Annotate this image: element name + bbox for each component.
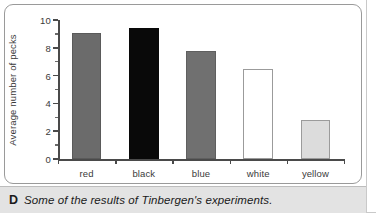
bar-black	[129, 28, 159, 159]
x-axis-line	[58, 159, 344, 161]
x-tick	[115, 159, 116, 164]
y-tick-minor	[55, 33, 58, 34]
x-tick-label-black: black	[132, 168, 155, 179]
x-tick-label-blue: blue	[192, 168, 210, 179]
y-tick-label: 6	[46, 70, 51, 81]
y-tick-minor	[55, 89, 58, 90]
x-tick-label-white: white	[247, 168, 270, 179]
y-axis-title: Average number of pecks	[7, 15, 18, 165]
page-edge-right	[366, 0, 367, 213]
y-tick-label: 10	[40, 15, 51, 26]
x-tick	[172, 159, 173, 164]
y-tick-label: 8	[46, 42, 51, 53]
y-tick-label: 4	[46, 98, 51, 109]
figure-caption-letter: D	[9, 193, 18, 207]
y-tick-major	[53, 75, 58, 77]
y-tick-label: 2	[46, 126, 51, 137]
y-tick-major	[53, 103, 58, 105]
figure-caption: D Some of the results of Tinbergen's exp…	[9, 193, 272, 207]
x-tick-label-red: red	[80, 168, 94, 179]
y-tick-minor	[55, 61, 58, 62]
bar-yellow	[301, 120, 331, 159]
chart-frame: 0246810 redblackbluewhiteyellow Colour o…	[4, 4, 362, 184]
bar-white	[243, 69, 273, 159]
y-tick-label: 0	[46, 154, 51, 165]
x-axis-title: Colour of spot on beak	[58, 183, 344, 184]
x-tick	[287, 159, 288, 164]
figure-caption-band: D Some of the results of Tinbergen's exp…	[0, 186, 366, 213]
x-tick	[230, 159, 231, 164]
plot-area: 0246810 redblackbluewhiteyellow Colour o…	[58, 20, 348, 159]
x-tick	[344, 159, 345, 164]
figure-panel: 0246810 redblackbluewhiteyellow Colour o…	[0, 0, 376, 213]
x-tick	[58, 159, 59, 164]
bar-blue	[186, 51, 216, 159]
bar-red	[72, 33, 102, 159]
y-tick-minor	[55, 144, 58, 145]
y-tick-major	[53, 130, 58, 132]
y-tick-major	[53, 47, 58, 49]
y-tick-major	[53, 19, 58, 21]
y-tick-minor	[55, 117, 58, 118]
figure-caption-text: Some of the results of Tinbergen's exper…	[24, 194, 272, 206]
x-tick-label-yellow: yellow	[302, 168, 329, 179]
y-axis-line	[58, 20, 60, 159]
